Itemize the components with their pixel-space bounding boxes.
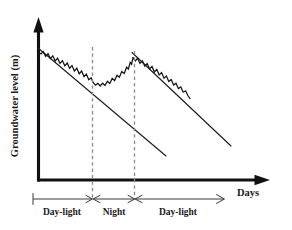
groundwater-curve-day-light-2 (133, 58, 190, 99)
segment-span-bars-group (33, 194, 225, 205)
groundwater-curve-night (93, 58, 133, 86)
segment-label-day-light-1: Day-light (43, 207, 82, 217)
segment-dividers-group (93, 47, 135, 199)
segment-label-night: Night (103, 207, 127, 217)
up-arrow-head-icon (33, 17, 43, 33)
x-axis-label: Days (237, 187, 259, 198)
right-arrow-head-icon (255, 175, 271, 186)
segment-label-day-light-2: Day-light (159, 207, 198, 217)
trend-line-day-light-2 (132, 53, 231, 147)
y-axis-label: Groundwater level (m) (9, 54, 21, 157)
axes-group (33, 17, 270, 185)
groundwater-curve-day-light-1 (39, 52, 94, 83)
groundwater-level-diagram: Groundwater level (m) Days (0, 0, 292, 230)
groundwater-curve-group (39, 52, 191, 99)
